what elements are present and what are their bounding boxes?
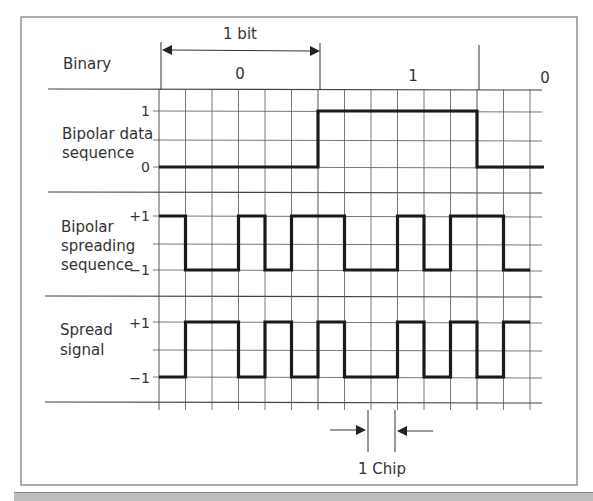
tick-data-high: 1 xyxy=(141,103,150,119)
bipolar-data-waveform xyxy=(159,111,544,167)
bit-arrow-left-icon xyxy=(162,45,172,55)
gridline-data-mid xyxy=(153,140,542,141)
section-divider xyxy=(45,402,542,403)
label-spreading-3: sequence xyxy=(61,256,133,274)
label-data-1: Bipolar data xyxy=(62,125,153,143)
tick-spreading-high: +1 xyxy=(129,208,150,224)
page-bottom-bar xyxy=(14,492,593,501)
label-spreading-2: spreading xyxy=(61,237,135,255)
label-data-2: sequence xyxy=(62,144,134,162)
binary-bit-0: 0 xyxy=(235,65,245,83)
bit-arrow-right-icon xyxy=(310,46,320,56)
label-spread-1: Spread xyxy=(60,321,113,339)
chip-arrow-right-pointing-icon xyxy=(356,425,366,435)
binary-bit-2: 0 xyxy=(540,69,550,87)
bit-marker-arrow xyxy=(170,50,312,51)
chip-marker-label: 1 Chip xyxy=(358,460,406,478)
chip-arrow-left-pointing-icon xyxy=(397,426,407,436)
binary-bit-1: 1 xyxy=(408,67,418,85)
gridline-spread-mid xyxy=(153,350,542,351)
tick-spreading-low: −1 xyxy=(129,262,150,278)
spreading-sequence-waveform xyxy=(159,216,530,270)
bit-marker-label: 1 bit xyxy=(223,25,257,43)
section-divider xyxy=(45,296,542,297)
section-divider xyxy=(48,192,542,193)
tick-data-low: 0 xyxy=(141,159,150,175)
section-divider xyxy=(48,89,542,90)
gridline-spreading-mid xyxy=(153,244,542,245)
label-binary: Binary xyxy=(63,55,111,73)
label-spreading-1: Bipolar xyxy=(61,218,115,236)
label-spread-2: signal xyxy=(60,341,104,359)
spread-signal-waveform xyxy=(159,322,530,377)
tick-spread-high: +1 xyxy=(129,315,150,331)
tick-spread-low: −1 xyxy=(129,370,150,386)
